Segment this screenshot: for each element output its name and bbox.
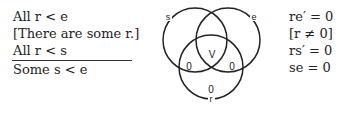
equation-1: re′ = 0 bbox=[289, 8, 333, 25]
label-r: r bbox=[210, 94, 213, 104]
mark-zero-3: 0 bbox=[208, 84, 214, 95]
equation-4: se = 0 bbox=[289, 59, 333, 76]
mark-zero-1: 0 bbox=[186, 61, 192, 72]
mark-v: V bbox=[209, 49, 216, 60]
label-s: s bbox=[166, 12, 171, 22]
mark-zero-2: 0 bbox=[229, 61, 235, 72]
label-e: e bbox=[251, 12, 256, 22]
equation-2: [r ≠ 0] bbox=[289, 25, 333, 42]
equation-3: rs′ = 0 bbox=[289, 42, 333, 59]
equations: re′ = 0 [r ≠ 0] rs′ = 0 se = 0 bbox=[289, 8, 333, 76]
